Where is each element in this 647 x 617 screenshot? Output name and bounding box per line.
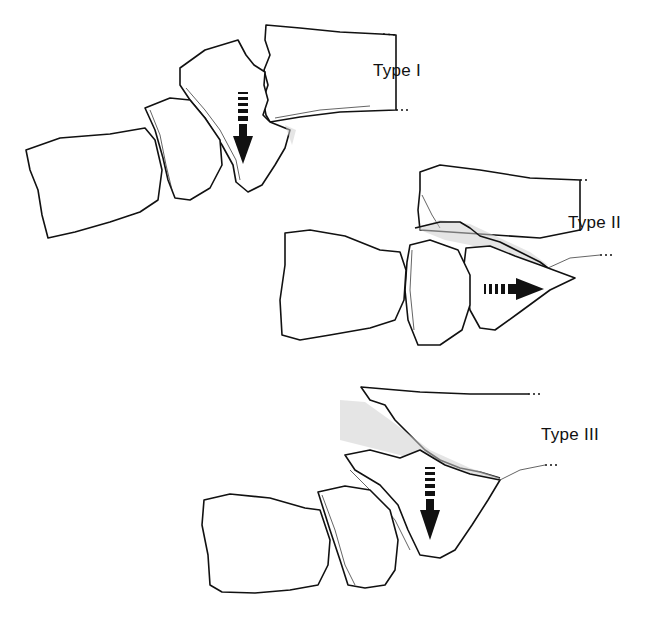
middle-carpal-type-3 [318,486,398,588]
label-type-3: Type III [541,425,599,445]
metacarpal-type-3 [202,494,330,593]
panel-type-3: Type III [0,0,647,617]
type-3-illustration [0,0,647,617]
